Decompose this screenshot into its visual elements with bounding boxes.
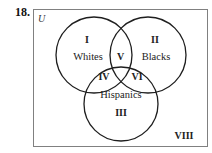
region-label-I: I (85, 34, 89, 45)
region-label-III: III (115, 107, 127, 118)
set-label-hispanics: Hispanics (100, 89, 141, 100)
universe-frame (34, 10, 208, 147)
universe-label: U (38, 13, 46, 24)
region-label-VI: VI (131, 71, 142, 82)
region-label-VIII: VIII (175, 130, 194, 141)
set-label-whites: Whites (73, 51, 103, 62)
venn-diagram: U I Whites II Blacks V IV VI Hispanics I… (0, 0, 212, 153)
hispanics-circle (84, 67, 158, 141)
region-label-II: II (151, 34, 159, 45)
region-label-IV: IV (98, 71, 110, 82)
region-label-V: V (117, 51, 125, 62)
set-label-blacks: Blacks (142, 51, 171, 62)
